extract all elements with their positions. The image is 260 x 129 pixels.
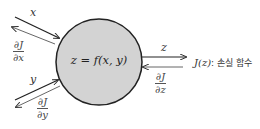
node-equation: z = f(x, y)	[56, 55, 142, 67]
loss-separator: :	[211, 58, 214, 68]
dJ-dy-denominator: ∂y	[37, 109, 48, 120]
dJ-dy-gradient-label: ∂J ∂y	[37, 97, 48, 120]
dJ-dy-numerator: ∂J	[37, 97, 48, 109]
dJ-dz-gradient-label: ∂J ∂z	[155, 72, 166, 95]
x-forward-arrow	[15, 17, 59, 38]
dJ-dz-numerator: ∂J	[155, 72, 166, 84]
dJ-dx-gradient-label: ∂J ∂x	[13, 40, 24, 63]
x-input-label: x	[30, 7, 36, 18]
dJ-dx-denominator: ∂x	[13, 52, 24, 63]
dJ-dz-denominator: ∂z	[155, 84, 165, 95]
loss-function-description: 손실 함수	[217, 58, 252, 68]
dJ-dx-numerator: ∂J	[13, 40, 24, 52]
y-input-label: y	[30, 74, 36, 85]
loss-function-symbol: J(z)	[194, 57, 211, 68]
loss-function-label: J(z): 손실 함수	[194, 56, 252, 69]
z-output-label: z	[161, 42, 167, 53]
computational-graph-diagram: x ∂J ∂x y ∂J ∂y z = f(x, y) z ∂J ∂z J(z)…	[0, 0, 260, 129]
